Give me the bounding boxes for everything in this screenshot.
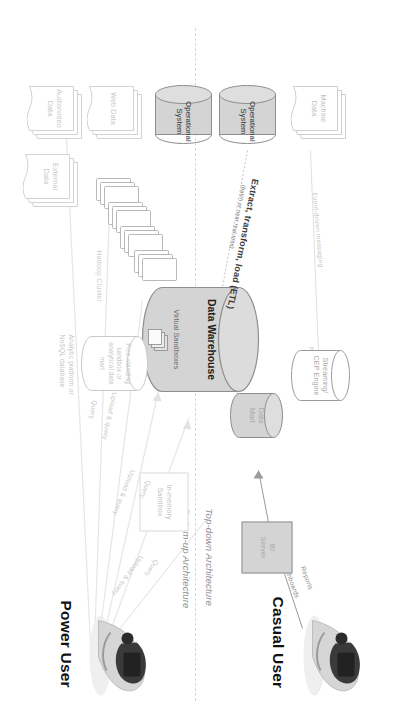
hadoop-cluster-node: Hadoop Cluster: [90, 176, 182, 296]
streaming-label-line1: Streaming/: [320, 349, 329, 401]
virtual-sandboxes-label: Virtual Sandboxes: [171, 286, 180, 392]
diagram-frame: Casual User Power User Top-down Architec…: [0, 0, 410, 721]
streaming-cep-engine-node: Streaming/ CEP Engine: [290, 349, 350, 401]
top-down-architecture-label: Top-down Architecture: [203, 508, 214, 605]
operational-system-2-label-line1: Operational: [183, 100, 192, 142]
free-standing-label-line3: analytical data: [105, 335, 114, 391]
operational-system-2-node: Operational System: [154, 84, 212, 144]
audio-video-data-node: Audio/video Data: [26, 84, 84, 146]
analytic-platform-caption: Analytic platform or NoSQL database: [60, 334, 74, 394]
external-data-node: External Data: [22, 152, 80, 214]
audio-video-data-label-line2: Data: [45, 86, 54, 130]
operational-system-1-node: Operational System: [218, 84, 276, 144]
web-data-node: Web Data: [86, 84, 144, 146]
machine-data-label-line2: Data: [309, 86, 318, 130]
operational-system-1-label-line1: Operational: [247, 100, 256, 142]
operational-system-2-label-line2: System: [174, 100, 183, 142]
bi-server-label-line1: BI: [267, 536, 276, 558]
analytic-platform-caption-line1: Analytic platform or: [67, 334, 74, 394]
analytic-platform-caption-line2: NoSQL database: [58, 334, 65, 394]
data-mart-label-line1: Data: [256, 392, 265, 438]
casual-user-label: Casual User: [268, 596, 286, 688]
casual-user-avatar: [300, 612, 374, 698]
streaming-cep-engine-label: Streaming/ CEP Engine: [311, 349, 328, 401]
bi-server-label-line2: Server: [258, 536, 267, 558]
machine-data-node: Machine Data: [290, 84, 348, 146]
external-data-label-line1: External: [49, 154, 58, 198]
virtual-sandbox-cubes-icon: [146, 328, 168, 358]
in-memory-sandbox-label-line2: Sandbox: [155, 484, 164, 519]
data-warehouse-node: Data Warehouse Virtual Sandboxes: [140, 286, 260, 392]
free-standing-sandbox-label: Free-standing sandbox or analytical data…: [97, 335, 131, 391]
streaming-label-line2: CEP Engine: [311, 349, 320, 401]
free-standing-label-line4: mart: [97, 335, 106, 391]
external-data-label-line2: Data: [41, 154, 50, 198]
data-mart-label-line2: Mart: [247, 392, 256, 438]
in-memory-sandbox-label-line1: In-memory: [164, 484, 173, 519]
data-mart-node: Data Mart: [229, 392, 283, 438]
data-warehouse-label: Data Warehouse: [205, 286, 216, 392]
free-standing-label-line2: sandbox or: [114, 335, 123, 391]
diagram-canvas: Casual User Power User Top-down Architec…: [0, 0, 410, 721]
operational-system-1-label-line2: System: [238, 100, 247, 142]
hadoop-cluster-label: Hadoop Cluster: [95, 250, 102, 301]
audio-video-data-label-line1: Audio/video: [53, 86, 62, 130]
web-data-label: Web Data: [107, 86, 116, 130]
power-user-avatar: [86, 612, 160, 698]
power-user-label: Power User: [56, 600, 74, 687]
free-standing-sandbox-node: Free-standing sandbox or analytical data…: [80, 335, 148, 391]
machine-data-label-line1: Machine: [317, 86, 326, 130]
bi-server-node: BI Server: [241, 521, 292, 573]
data-mart-label: Data Mart: [247, 392, 264, 438]
free-standing-label-line1: Free-standing: [123, 335, 132, 391]
